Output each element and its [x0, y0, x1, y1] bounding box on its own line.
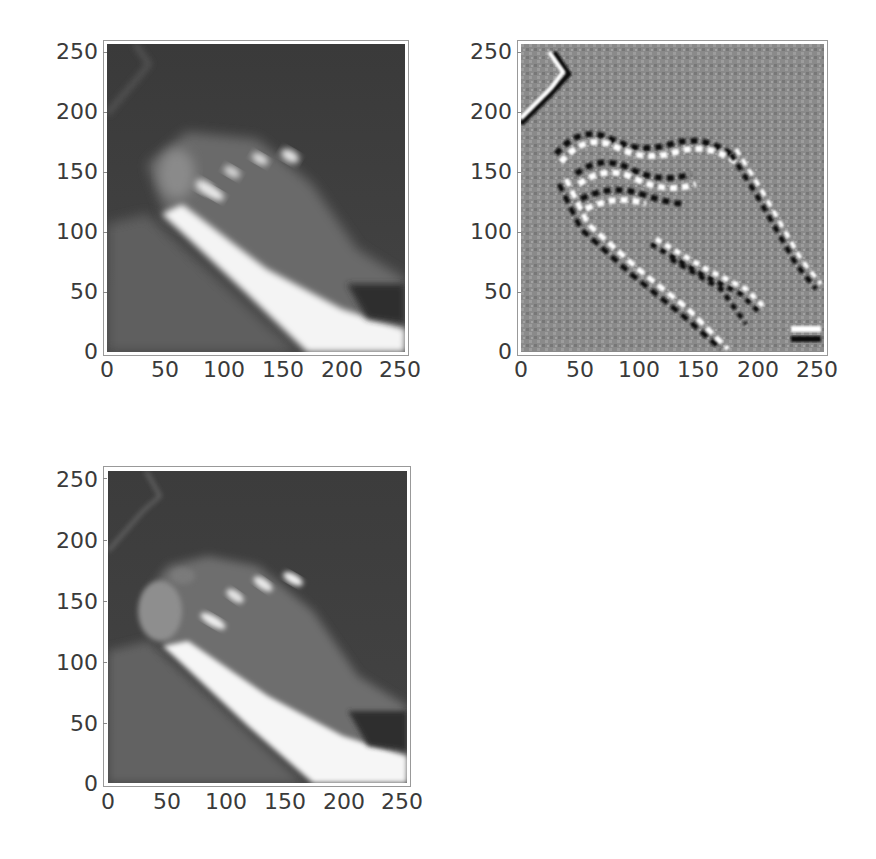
- x-tick-label: 150: [668, 359, 728, 381]
- x-tick-label: 100: [609, 359, 669, 381]
- image-plot-foot-restored: [108, 471, 407, 783]
- y-tick-label: 100: [456, 221, 512, 243]
- y-tick-label: 150: [42, 591, 98, 613]
- x-tick-label: 250: [372, 791, 432, 813]
- x-tick-label: 100: [196, 791, 256, 813]
- x-tick-label: 0: [78, 791, 138, 813]
- image-plot-foot-edges: [521, 44, 824, 352]
- y-tick-label: 200: [456, 101, 512, 123]
- x-tick-label: 50: [137, 791, 197, 813]
- x-tick-label: 250: [787, 359, 847, 381]
- x-tick-label: 200: [314, 791, 374, 813]
- x-tick-label: 50: [550, 359, 610, 381]
- y-tick-label: 200: [42, 530, 98, 552]
- y-tick-label: 100: [42, 652, 98, 674]
- y-tick-label: 250: [42, 469, 98, 491]
- x-tick-label: 150: [255, 791, 315, 813]
- panel-restored-image: 250 200 150 100 50 0 0 50 100 150 200 25…: [0, 0, 440, 859]
- y-tick-label: 50: [456, 281, 512, 303]
- y-tick-label: 50: [42, 713, 98, 735]
- y-tick-label: 150: [456, 161, 512, 183]
- x-tick-label: 200: [728, 359, 788, 381]
- y-tick-label: 250: [456, 41, 512, 63]
- x-tick-label: 0: [491, 359, 551, 381]
